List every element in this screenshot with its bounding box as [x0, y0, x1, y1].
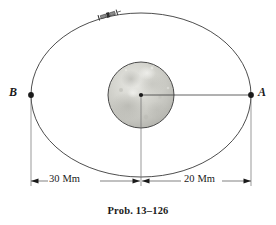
point-label-B: B — [9, 86, 17, 98]
figure-canvas — [0, 0, 276, 225]
orbit-figure: B A 30 Mm 20 Mm Prob. 13–126 — [0, 0, 276, 225]
point-A-marker — [248, 92, 254, 98]
figure-caption: Prob. 13–126 — [0, 206, 276, 217]
dimension-30mm — [31, 179, 140, 184]
dimension-label-30mm: 30 Mm — [49, 174, 80, 185]
point-B-marker — [28, 92, 34, 98]
point-label-A: A — [258, 86, 266, 98]
dimension-label-20mm: 20 Mm — [184, 174, 215, 185]
moon-center-marker — [139, 93, 143, 97]
